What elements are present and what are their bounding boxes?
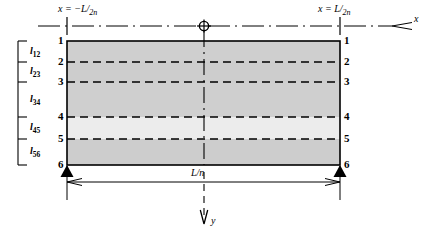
y-axis-line xyxy=(200,172,207,224)
node-label-right-2: 2 xyxy=(344,56,350,67)
node-label-right-1: 1 xyxy=(344,35,350,46)
station-label-left-prefix: x = − xyxy=(58,3,81,14)
x-axis-label: x xyxy=(414,14,418,24)
segment-label-23-sub: 23 xyxy=(33,70,41,79)
node-label-left-4: 4 xyxy=(58,111,64,122)
segment-scale xyxy=(18,41,27,165)
x-axis-arrowhead xyxy=(392,23,412,30)
layered-beam-diagram: x = −L/2n x = L/2n x y L/n 1 2 3 4 5 6 1… xyxy=(0,0,429,239)
node-label-right-3: 3 xyxy=(344,76,350,87)
segment-label-45: l45 xyxy=(30,122,40,135)
node-label-left-6: 6 xyxy=(58,159,64,170)
segment-label-56: l56 xyxy=(30,146,40,159)
x-axis-line xyxy=(38,23,412,30)
segment-label-34-sub: 34 xyxy=(33,98,41,107)
node-label-left-5: 5 xyxy=(58,133,64,144)
station-label-right: x = L/2n xyxy=(318,4,351,17)
node-label-right-6: 6 xyxy=(344,159,350,170)
node-label-right-4: 4 xyxy=(344,111,350,122)
segment-label-45-sub: 45 xyxy=(33,126,41,135)
node-label-left-3: 3 xyxy=(58,76,64,87)
node-label-left-1: 1 xyxy=(58,35,64,46)
segment-label-56-sub: 56 xyxy=(33,150,41,159)
span-dimension-label: L/n xyxy=(191,168,204,178)
node-label-right-5: 5 xyxy=(344,133,350,144)
y-axis-label: y xyxy=(211,216,215,226)
station-label-left-denominator: 2n xyxy=(89,8,97,17)
segment-label-34: l34 xyxy=(30,94,40,107)
station-label-right-denominator: 2n xyxy=(343,8,351,17)
origin-marker xyxy=(197,20,211,33)
segment-label-12: l12 xyxy=(30,46,40,59)
station-label-left: x = −L/2n xyxy=(58,4,97,17)
segment-label-23: l23 xyxy=(30,66,40,79)
node-label-left-2: 2 xyxy=(58,56,64,67)
segment-label-12-sub: 12 xyxy=(33,50,41,59)
station-label-right-prefix: x = xyxy=(318,3,334,14)
diagram-canvas xyxy=(0,0,429,239)
